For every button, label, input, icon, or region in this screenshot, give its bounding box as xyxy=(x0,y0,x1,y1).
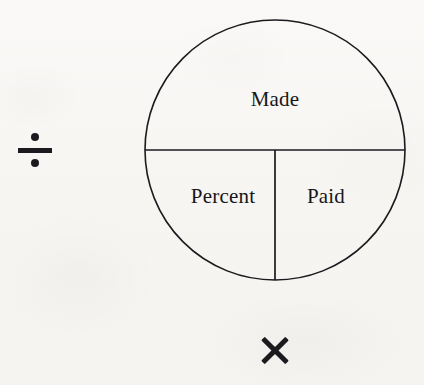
segment-label-made: Made xyxy=(251,89,300,110)
diagram-page: Made Percent Paid xyxy=(0,0,424,385)
division-dot-bottom xyxy=(31,159,39,167)
multiplication-sign-icon xyxy=(259,334,291,366)
segment-label-paid: Paid xyxy=(307,186,345,207)
segment-label-percent: Percent xyxy=(191,186,255,207)
division-bar xyxy=(18,148,52,153)
division-dot-top xyxy=(31,133,39,141)
division-sign-icon xyxy=(18,133,52,167)
